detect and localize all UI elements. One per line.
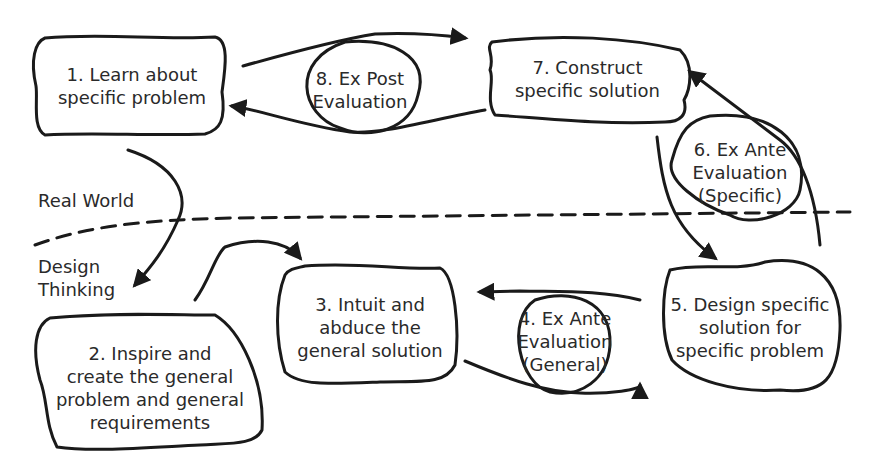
node-8-label: 8. Ex Post Evaluation	[305, 67, 415, 113]
zone-label-real-world: Real World	[38, 189, 134, 212]
world-boundary-line	[35, 212, 850, 245]
node-6-label: 6. Ex Ante Evaluation (Specific)	[690, 138, 790, 207]
node-1-label: 1. Learn about specific problem	[42, 63, 222, 109]
node-4-label: 4. Ex Ante Evaluation (General)	[515, 307, 615, 376]
node-7-label: 7. Construct specific solution	[495, 56, 680, 102]
node-3-label: 3. Intuit and abduce the general solutio…	[285, 293, 455, 362]
arrow-2-to-3	[195, 241, 300, 300]
node-5-label: 5. Design specific solution for specific…	[660, 293, 840, 362]
node-2-label: 2. Inspire and create the general proble…	[45, 342, 255, 434]
design-thinking-diagram: Real World Design Thinking 1. Learn abou…	[0, 0, 871, 471]
arrow-1-to-2	[128, 150, 182, 285]
arrow-1-to-7	[243, 33, 465, 66]
zone-label-design-thinking: Design Thinking	[38, 255, 115, 301]
